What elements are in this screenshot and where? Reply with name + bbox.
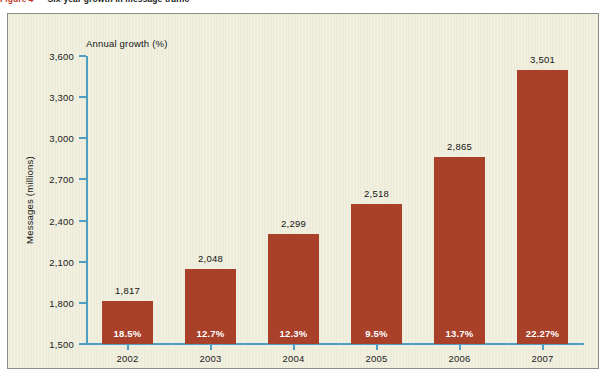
figure-label: Figure xyxy=(0,0,27,4)
x-tick xyxy=(459,344,461,350)
x-tick xyxy=(376,344,378,350)
bar-growth-label: 13.7% xyxy=(446,328,474,339)
y-tick-label: 1,500 xyxy=(49,339,74,350)
bar-value-label: 3,501 xyxy=(530,54,555,65)
figure-frame: Annual growth (%) Messages (millions) 1,… xyxy=(7,13,599,369)
bar-value-label: 2,518 xyxy=(364,188,389,199)
bar-growth-label: 9.5% xyxy=(365,328,387,339)
bar[interactable]: 1,81718.5% xyxy=(102,301,153,344)
x-tick xyxy=(210,344,212,350)
y-tick: 3,000 xyxy=(79,137,86,139)
x-tick-label: 2004 xyxy=(283,353,305,364)
bar-value-label: 2,048 xyxy=(198,253,223,264)
y-tick: 2,100 xyxy=(79,261,86,263)
bar-growth-label: 18.5% xyxy=(114,328,142,339)
secondary-axis-title: Annual growth (%) xyxy=(86,38,168,49)
bar[interactable]: 2,04812.7% xyxy=(185,269,236,344)
y-tick: 3,600 xyxy=(79,55,86,57)
y-tick-label: 2,400 xyxy=(49,215,74,226)
y-tick: 3,300 xyxy=(79,96,86,98)
figure-root: Figure4Six-year growth in message traffi… xyxy=(0,0,606,378)
bar-growth-label: 12.3% xyxy=(280,328,308,339)
figure-caption: Figure4Six-year growth in message traffi… xyxy=(0,0,606,10)
y-axis-line xyxy=(86,56,88,344)
x-tick-label: 2006 xyxy=(449,353,471,364)
bar-value-label: 2,299 xyxy=(281,218,306,229)
y-tick: 2,700 xyxy=(79,178,86,180)
x-tick-label: 2005 xyxy=(366,353,388,364)
y-tick-label: 2,700 xyxy=(49,174,74,185)
y-tick: 1,500 xyxy=(79,343,86,345)
y-tick-label: 1,800 xyxy=(49,297,74,308)
y-tick-label: 3,600 xyxy=(49,51,74,62)
x-axis-line xyxy=(86,343,584,345)
x-tick-label: 2002 xyxy=(117,353,139,364)
bar-growth-label: 12.7% xyxy=(197,328,225,339)
x-tick-label: 2007 xyxy=(532,353,554,364)
figure-caption-text: Six-year growth in message traffic xyxy=(47,0,189,4)
y-tick-label: 2,100 xyxy=(49,256,74,267)
y-tick-label: 3,000 xyxy=(49,133,74,144)
y-tick: 1,800 xyxy=(79,302,86,304)
x-tick xyxy=(293,344,295,350)
y-axis-title: Messages (millions) xyxy=(24,56,38,344)
x-tick-label: 2003 xyxy=(200,353,222,364)
x-tick xyxy=(127,344,129,350)
x-tick xyxy=(542,344,544,350)
y-tick-label: 3,300 xyxy=(49,92,74,103)
plot-area: 1,5001,8002,1002,4002,7003,0003,3003,600… xyxy=(86,56,584,344)
y-tick: 2,400 xyxy=(79,220,86,222)
bar-value-label: 1,817 xyxy=(115,285,140,296)
bar[interactable]: 2,29912.3% xyxy=(268,234,319,344)
bar[interactable]: 2,86513.7% xyxy=(434,157,485,344)
bar[interactable]: 3,50122.27% xyxy=(517,70,568,344)
bar-value-label: 2,865 xyxy=(447,141,472,152)
bar-growth-label: 22.27% xyxy=(526,328,559,339)
figure-number: 4 xyxy=(29,0,34,4)
bar[interactable]: 2,5189.5% xyxy=(351,204,402,344)
